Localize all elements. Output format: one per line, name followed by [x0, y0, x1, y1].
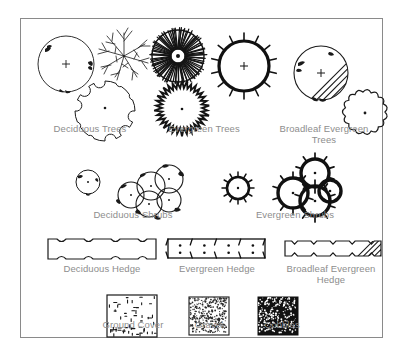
label-evergreen-shrubs: Evergreen Shrubs: [225, 209, 365, 220]
label-broadleaf-evergreen-hedge: Broadleaf Evergreen Hedge: [271, 263, 391, 285]
broadleaf-hedge-bar: [284, 240, 384, 258]
evergreen-shrub-single: [221, 171, 255, 205]
label-deciduous-shrubs: Deciduous Shrubs: [63, 209, 203, 220]
label-cobbles: Cobbles: [247, 319, 317, 330]
deciduous-shrub-single: [73, 167, 103, 197]
cobbles-swatch: [257, 296, 299, 336]
evergreen-tree-spiked-circle: [211, 33, 277, 99]
label-deciduous-hedge: Deciduous Hedge: [37, 263, 167, 274]
deciduous-hedge-bar: [47, 238, 157, 260]
legend-panel: {"cx":29,"cy":29,"r1":7,"r2":26,"n":92}: [20, 18, 383, 338]
label-ground-cover: Ground Cover: [79, 319, 187, 330]
label-evergreen-trees: Evergreen Trees: [139, 123, 269, 134]
gravel-swatch: [188, 296, 230, 336]
evergreen-hedge-bar: [167, 238, 267, 260]
label-deciduous-trees: Deciduous Trees: [25, 123, 155, 134]
label-evergreen-hedge: Evergreen Hedge: [152, 263, 282, 274]
ground-cover-swatch: [106, 294, 158, 338]
label-gravel: Gravel: [176, 319, 242, 330]
landscape-symbol-legend: {"cx":29,"cy":29,"r1":7,"r2":26,"n":92}: [0, 0, 402, 356]
label-broadleaf-evergreen-trees: Broadleaf Evergreen Trees: [265, 123, 383, 145]
